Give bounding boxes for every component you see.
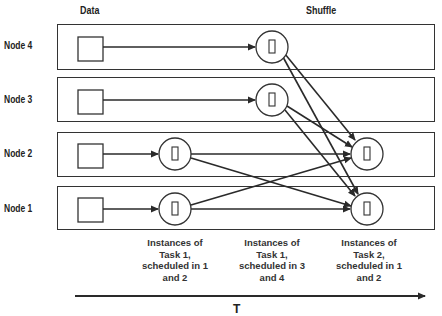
caption-line: Task 1,: [226, 249, 318, 261]
task-instance-icons: [159, 31, 383, 225]
task-slot-icons: [172, 40, 370, 215]
caption-task1-nodes-3-4: Instances of Task 1, scheduled in 3 and …: [226, 237, 318, 283]
data-block-icon: [78, 37, 103, 222]
shuffle-arrows: [191, 54, 358, 209]
caption-task1-nodes-1-2: Instances of Task 1, scheduled in 1 and …: [129, 237, 221, 283]
caption-line: and 2: [129, 272, 221, 284]
caption-line: and 2: [323, 272, 415, 284]
caption-line: scheduled in 3: [226, 260, 318, 272]
caption-task2-nodes-1-2: Instances of Task 2, scheduled in 1 and …: [323, 237, 415, 283]
caption-line: Instances of: [226, 237, 318, 249]
caption-line: Task 2,: [323, 249, 415, 261]
caption-line: Instances of: [323, 237, 415, 249]
time-axis-label: T: [233, 302, 240, 316]
caption-line: Task 1,: [129, 249, 221, 261]
caption-line: scheduled in 1: [323, 260, 415, 272]
caption-line: and 4: [226, 272, 318, 284]
data-to-task-arrows: [103, 47, 255, 209]
caption-line: scheduled in 1: [129, 260, 221, 272]
caption-line: Instances of: [129, 237, 221, 249]
